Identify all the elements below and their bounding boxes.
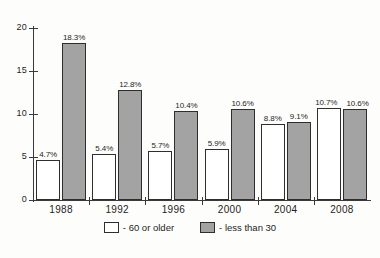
bar-value-label: 5.7% bbox=[151, 141, 169, 150]
y-axis-tick-label: 15 bbox=[17, 65, 27, 75]
bar-value-label: 18.3% bbox=[63, 33, 85, 42]
bar-group: 8.8%9.1% bbox=[258, 28, 314, 200]
bar-value-label: 10.6% bbox=[346, 99, 368, 108]
x-axis-label: 2004 bbox=[258, 204, 314, 215]
bar[interactable]: 4.7% bbox=[36, 160, 60, 200]
x-axis-label: 1992 bbox=[89, 204, 145, 215]
bar-value-label: 8.8% bbox=[264, 114, 282, 123]
x-axis-label: 1988 bbox=[33, 204, 89, 215]
chart-figure: 20151050 4.7%18.3%5.4%12.8%5.7%10.4%5.9%… bbox=[0, 0, 380, 258]
y-axis-tick-label: 5 bbox=[22, 151, 27, 161]
x-axis-label: 2000 bbox=[202, 204, 258, 215]
chart-legend: - 60 or older- less than 30 bbox=[0, 222, 380, 233]
bar[interactable]: 9.1% bbox=[287, 122, 311, 200]
bar-value-label: 4.7% bbox=[39, 150, 57, 159]
bar[interactable]: 5.4% bbox=[92, 154, 116, 200]
bar-group: 5.9%10.6% bbox=[202, 28, 258, 200]
x-axis-label: 2008 bbox=[314, 204, 370, 215]
bar-value-label: 5.9% bbox=[208, 139, 226, 148]
bar[interactable]: 18.3% bbox=[62, 43, 86, 200]
bar[interactable]: 10.6% bbox=[343, 109, 367, 200]
bar-value-label: 10.6% bbox=[231, 99, 253, 108]
legend-label: - 60 or older bbox=[123, 222, 174, 233]
bar[interactable]: 10.7% bbox=[317, 108, 341, 200]
y-axis-tick-label: 20 bbox=[17, 22, 27, 32]
bar[interactable]: 5.9% bbox=[205, 149, 229, 200]
bar[interactable]: 12.8% bbox=[118, 90, 142, 200]
bar-group: 4.7%18.3% bbox=[33, 28, 89, 200]
y-axis-tick-label: 0 bbox=[22, 194, 27, 204]
bar-value-label: 12.8% bbox=[119, 80, 141, 89]
bar[interactable]: 10.6% bbox=[231, 109, 255, 200]
bar[interactable]: 5.7% bbox=[148, 151, 172, 200]
legend-item[interactable]: - less than 30 bbox=[200, 222, 276, 233]
y-axis-tick-label: 10 bbox=[17, 108, 27, 118]
bar-value-label: 5.4% bbox=[95, 144, 113, 153]
legend-swatch-dark bbox=[200, 222, 215, 233]
legend-item[interactable]: - 60 or older bbox=[104, 222, 174, 233]
x-axis-label: 1996 bbox=[145, 204, 201, 215]
bar[interactable]: 10.4% bbox=[174, 111, 198, 200]
bar-value-label: 9.1% bbox=[290, 112, 308, 121]
bar-group: 10.7%10.6% bbox=[314, 28, 370, 200]
plot-area: 4.7%18.3%5.4%12.8%5.7%10.4%5.9%10.6%8.8%… bbox=[33, 28, 370, 200]
bar-group: 5.7%10.4% bbox=[145, 28, 201, 200]
bar[interactable]: 8.8% bbox=[261, 124, 285, 200]
bar-value-label: 10.7% bbox=[315, 98, 337, 107]
bar-value-label: 10.4% bbox=[175, 101, 197, 110]
legend-swatch-light bbox=[104, 222, 119, 233]
legend-label: - less than 30 bbox=[219, 222, 276, 233]
bar-group: 5.4%12.8% bbox=[89, 28, 145, 200]
